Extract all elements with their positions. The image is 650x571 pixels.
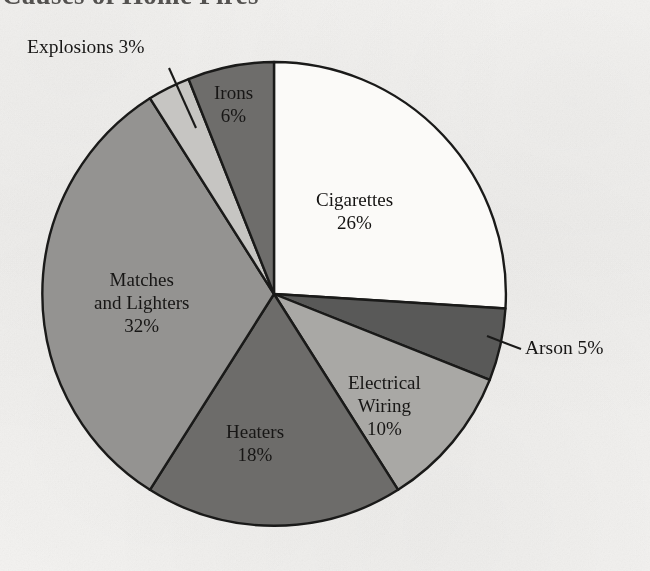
pie-chart-page: Causes of Home Fires Cigarettes 26% Elec…	[0, 0, 650, 571]
pie-slice-cigarettes[interactable]	[274, 62, 506, 309]
pie-chart	[0, 0, 650, 571]
